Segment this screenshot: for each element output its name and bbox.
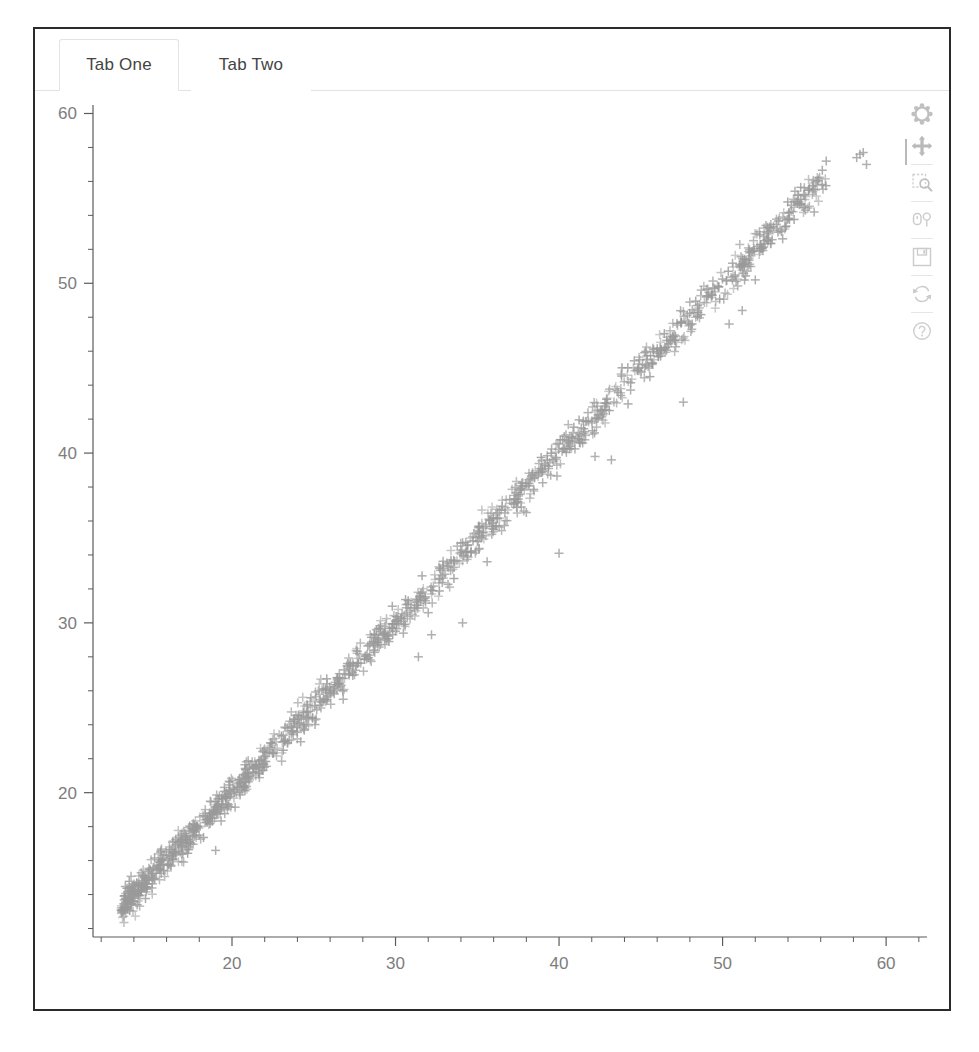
plot-panel: 20304050602030405060 <box>35 91 949 1009</box>
tab-one[interactable]: Tab One <box>59 39 179 91</box>
plot-toolbar <box>905 99 939 346</box>
x-tick-label: 40 <box>550 954 569 973</box>
x-tick-label: 50 <box>713 954 732 973</box>
tab-two[interactable]: Tab Two <box>191 39 311 91</box>
x-tick-label: 60 <box>877 954 896 973</box>
plot-background <box>35 91 949 1009</box>
y-tick-label: 20 <box>58 784 77 803</box>
toolbar-divider <box>911 201 933 202</box>
pan-icon[interactable] <box>907 131 937 161</box>
y-tick-label: 60 <box>58 104 77 123</box>
scatter-plot[interactable]: 20304050602030405060 <box>35 91 949 1009</box>
bokeh-logo-icon <box>907 99 937 129</box>
tab-bar: Tab One Tab Two <box>35 29 949 91</box>
help-icon[interactable] <box>907 316 937 346</box>
toolbar-divider <box>911 238 933 239</box>
y-tick-label: 50 <box>58 274 77 293</box>
x-tick-label: 20 <box>223 954 242 973</box>
save-icon[interactable] <box>907 242 937 272</box>
toolbar-divider <box>911 312 933 313</box>
y-tick-label: 40 <box>58 444 77 463</box>
box-zoom-icon[interactable] <box>907 168 937 198</box>
app-window: Tab One Tab Two 20304050602030405060 <box>33 27 951 1011</box>
x-tick-label: 30 <box>386 954 405 973</box>
hover-icon[interactable] <box>907 205 937 235</box>
toolbar-divider <box>911 164 933 165</box>
reset-icon[interactable] <box>907 279 937 309</box>
toolbar-divider <box>911 275 933 276</box>
y-tick-label: 30 <box>58 614 77 633</box>
